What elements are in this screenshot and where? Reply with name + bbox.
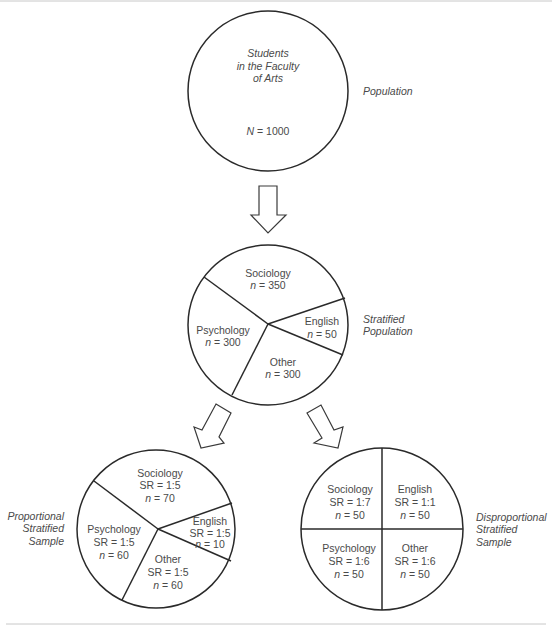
stratified-population-label-line-2: Population [363,325,413,337]
stratum-psychology-sr: SR = 1:6 [328,555,369,567]
stratum-other-size: n = 50 [400,568,430,580]
disproportional-label-line-2: Stratified [476,523,519,535]
population-circle [188,11,348,171]
stratum-psychology-size: n = 300 [205,336,240,348]
size-value: = 50 [313,328,337,340]
down-right-arrow-icon [307,405,343,448]
size-value: = 350 [256,279,286,291]
stratum-sociology-name: Sociology [245,267,291,279]
proportional-label-line-1: Proportional [7,510,64,522]
population-node: Students in the Faculty of Arts N = 1000 [188,11,348,171]
down-left-arrow-icon [194,404,231,448]
stratum-psychology-sr: SR = 1:5 [93,536,134,548]
stratified-population-node: Sociology n = 350 English n = 50 Other n… [188,245,348,405]
disproportional-label-line-3: Sample [476,536,512,548]
stratum-english-name: English [398,483,433,495]
stratum-other-size: n = 300 [265,368,300,380]
stratum-psychology-size: n = 50 [334,568,364,580]
size-value: = 50 [340,568,364,580]
stratum-english-sr: SR = 1:1 [394,496,435,508]
disproportional-sample-node: Sociology SR = 1:7 n = 50 English SR = 1… [301,448,463,610]
size-value: = 50 [341,509,365,521]
stratum-psychology-name: Psychology [87,523,141,535]
stratum-psychology-name: Psychology [196,324,250,336]
stratified-population-label-line-1: Stratified [363,313,406,325]
proportional-sample-node: Sociology SR = 1:5 n = 70 English SR = 1… [77,450,235,608]
stratum-other-size: n = 60 [153,579,183,591]
stratum-other-name: Other [270,356,297,368]
size-value: = 300 [271,368,301,380]
stratum-sociology-name: Sociology [137,467,183,479]
size-value: = 60 [159,579,183,591]
population-label: Population [363,85,413,97]
stratum-other-sr: SR = 1:6 [394,555,435,567]
down-arrow-icon [251,186,286,233]
stratified-sampling-diagram: Students in the Faculty of Arts N = 1000… [0,0,552,634]
population-size: N = 1000 [247,125,290,137]
stratum-other-sr: SR = 1:5 [147,566,188,578]
population-size-value: = 1000 [254,125,289,137]
stratum-english-size: n = 50 [400,509,430,521]
size-value: = 10 [201,538,225,550]
stratum-english-name: English [305,315,340,327]
size-value: = 300 [211,336,241,348]
stratum-english-name: English [193,515,228,527]
stratum-english-size: n = 10 [195,538,225,550]
stratum-sociology-size: n = 50 [335,509,365,521]
population-desc-line-2: in the Faculty [237,60,300,72]
stratum-english-size: n = 50 [307,328,337,340]
proportional-label-line-2: Stratified [23,522,66,534]
disproportional-label-line-1: Disproportional [476,511,547,523]
stratum-other-name: Other [402,542,429,554]
size-value: = 60 [105,549,129,561]
proportional-label-line-3: Sample [28,535,64,547]
stratum-sociology-name: Sociology [327,483,373,495]
stratum-sociology-sr: SR = 1:7 [329,496,370,508]
population-desc-line-3: of Arts [253,72,284,84]
population-desc-line-1: Students [247,47,289,59]
stratum-other-name: Other [155,553,182,565]
size-value: = 50 [406,509,430,521]
stratum-sociology-size: n = 70 [145,492,175,504]
stratum-sociology-size: n = 350 [250,279,285,291]
stratum-sociology-sr: SR = 1:5 [139,479,180,491]
size-value: = 70 [151,492,175,504]
stratum-psychology-size: n = 60 [99,549,129,561]
size-value: = 50 [406,568,430,580]
stratum-psychology-name: Psychology [322,542,376,554]
